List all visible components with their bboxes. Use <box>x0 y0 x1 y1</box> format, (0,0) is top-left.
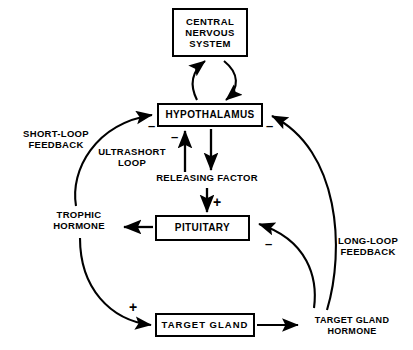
sign-short-loop-negative: – <box>148 119 155 132</box>
arrow-trophic-hormone-to-target-gland <box>80 238 151 325</box>
sign-trophic-positive: + <box>129 300 137 314</box>
arrow-long-loop-feedback-to-hypothalamus <box>272 116 336 310</box>
sign-ultrashort-negative: – <box>171 130 178 143</box>
label-long-loop-feedback: LONG-LOOP FEEDBACK <box>328 235 408 258</box>
sign-releasing-factor-positive: + <box>213 195 221 209</box>
label-target-gland-hormone: TARGET GLAND HORMONE <box>303 315 401 337</box>
arrow-hypothalamus-to-cns <box>193 61 205 100</box>
node-target-gland[interactable]: TARGET GLAND <box>155 313 255 337</box>
sign-long-loop-hypothalamus-negative: – <box>266 119 273 132</box>
node-hypothalamus[interactable]: HYPOTHALAMUS <box>157 103 263 127</box>
sign-long-loop-pituitary-negative: – <box>265 237 272 250</box>
node-central-nervous-system[interactable]: CENTRAL NERVOUS SYSTEM <box>172 8 248 57</box>
node-pituitary[interactable]: PITUITARY <box>155 215 250 241</box>
label-short-loop-feedback: SHORT-LOOP FEEDBACK <box>10 128 102 151</box>
label-releasing-factor: RELEASING FACTOR <box>142 172 272 183</box>
label-trophic-hormone: TROPHIC HORMONE <box>40 209 118 232</box>
arrow-cns-to-hypothalamus <box>224 61 236 100</box>
label-ultrashort-loop: ULTRASHORT LOOP <box>92 146 172 169</box>
diagram-canvas: CENTRAL NERVOUS SYSTEM HYPOTHALAMUS PITU… <box>0 0 413 350</box>
